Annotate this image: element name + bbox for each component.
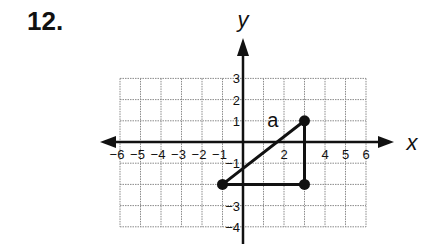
x-tick-label: −5 [130, 147, 145, 162]
y-tick-label: −3 [225, 199, 240, 214]
x-tick-label: −6 [110, 147, 125, 162]
y-tick-label: 2 [233, 93, 240, 108]
side-label-a: a [267, 109, 279, 131]
x-tick-label: 2 [280, 147, 287, 162]
vertex-point [299, 115, 310, 126]
y-tick-label: −4 [225, 220, 240, 235]
x-tick-label: −3 [171, 147, 186, 162]
x-axis-right-arrow-icon [378, 136, 394, 148]
y-axis-up-arrow-icon [237, 38, 249, 56]
y-axis-label: y [236, 7, 251, 32]
x-tick-label: −4 [151, 147, 166, 162]
vertex-point [299, 179, 310, 190]
x-tick-label: 4 [321, 147, 328, 162]
x-axis-label: x [406, 130, 419, 155]
x-tick-label: −2 [192, 147, 207, 162]
axis-labels: yx [236, 7, 419, 155]
x-tick-label: 5 [342, 147, 349, 162]
axes [100, 38, 394, 244]
y-tick-label: 1 [233, 114, 240, 129]
vertex-point [217, 179, 228, 190]
y-tick-label: 3 [233, 71, 240, 86]
x-tick-label: 6 [362, 147, 369, 162]
coordinate-plane: −6−5−4−3−2−12456321−1−3−4 a yx [0, 0, 442, 244]
y-tick-label: −1 [225, 156, 240, 171]
tick-labels: −6−5−4−3−2−12456321−1−3−4 [110, 71, 370, 234]
